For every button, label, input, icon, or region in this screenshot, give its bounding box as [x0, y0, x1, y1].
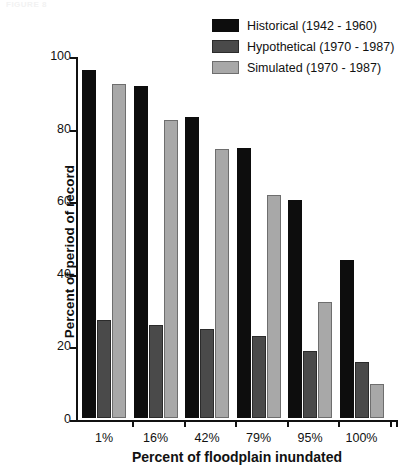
bar-historical-100pct	[340, 260, 354, 418]
x-tick-label-16pct: 16%	[143, 431, 168, 445]
y-tick-mark	[70, 347, 77, 349]
x-tick-mark	[390, 420, 392, 427]
plot-area: 020406080100 1%16%42%79%95%100% Percent …	[76, 57, 398, 420]
x-tick-mark	[287, 420, 289, 427]
x-tick-label-1pct: 1%	[95, 431, 113, 445]
x-tick-mark	[235, 420, 237, 427]
x-tick-label-100pct: 100%	[346, 431, 378, 445]
bar-hypothetical-1pct	[97, 320, 111, 418]
x-tick-label-42pct: 42%	[194, 431, 219, 445]
y-tick-label: 80	[57, 122, 71, 136]
bar-simulated-16pct	[164, 120, 178, 418]
bar-hypothetical-79pct	[252, 336, 266, 418]
x-tick-label-95pct: 95%	[297, 431, 322, 445]
bar-hypothetical-16pct	[149, 325, 163, 418]
y-tick-mark	[70, 130, 77, 132]
bar-simulated-95pct	[318, 302, 332, 418]
x-axis-title: Percent of floodplain inundated	[76, 449, 398, 465]
bar-historical-1pct	[82, 70, 96, 418]
x-tick-label-79pct: 79%	[246, 431, 271, 445]
x-axis-end-tick	[396, 420, 398, 427]
bar-historical-42pct	[185, 117, 199, 418]
x-tick-mark	[132, 420, 134, 427]
x-tick-mark	[338, 420, 340, 427]
bar-hypothetical-42pct	[200, 329, 214, 418]
legend-item-historical: Historical (1942 - 1960)	[212, 16, 408, 35]
legend-item-hypothetical: Hypothetical (1970 - 1987)	[212, 37, 408, 56]
y-tick-mark	[70, 57, 77, 59]
bar-hypothetical-95pct	[303, 351, 317, 418]
cropped-figure-caption: FIGURE 8	[6, 0, 76, 9]
bar-historical-16pct	[134, 86, 148, 418]
bar-historical-79pct	[237, 148, 251, 418]
bar-historical-95pct	[288, 200, 302, 418]
bar-simulated-100pct	[370, 384, 384, 418]
y-tick-label: 20	[57, 339, 71, 353]
legend-label-hypothetical: Hypothetical (1970 - 1987)	[247, 40, 394, 54]
bar-hypothetical-100pct	[355, 362, 369, 418]
legend-label-historical: Historical (1942 - 1960)	[247, 19, 377, 33]
bar-simulated-42pct	[215, 149, 229, 418]
y-axis-title: Percent of period of record	[62, 165, 77, 338]
legend-swatch-historical	[212, 19, 239, 32]
x-tick-mark	[184, 420, 186, 427]
legend-swatch-hypothetical	[212, 40, 239, 53]
y-tick-label: 100	[50, 49, 71, 63]
bar-simulated-79pct	[267, 195, 281, 418]
y-tick-label: 0	[64, 412, 71, 426]
bar-simulated-1pct	[112, 84, 126, 418]
x-axis-line	[76, 420, 398, 422]
y-tick-mark	[70, 420, 77, 422]
